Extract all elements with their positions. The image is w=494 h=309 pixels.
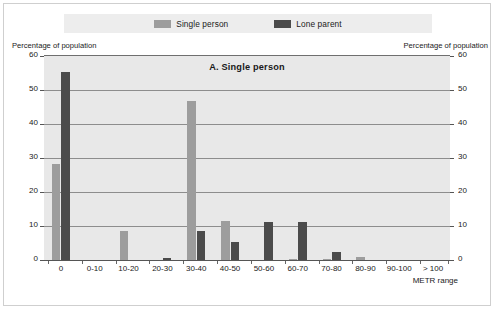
x-tick-label: > 100 [423, 264, 443, 273]
y-tick-label-right: 0 [458, 255, 482, 263]
bar-lone-parent [197, 231, 206, 261]
bar-lone-parent [61, 72, 70, 261]
y-tick-mark [450, 192, 454, 193]
x-tick-label: 90-100 [387, 264, 412, 273]
y-tick-label-left: 40 [14, 119, 38, 127]
y-tick-label-left: 60 [14, 51, 38, 59]
y-tick-label-left: 10 [14, 221, 38, 229]
legend-label: Single person [176, 19, 228, 29]
y-tick-mark [450, 124, 454, 125]
y-tick-label-right: 40 [458, 119, 482, 127]
x-tick-label: 50-60 [254, 264, 274, 273]
y-tick-label-right: 60 [458, 51, 482, 59]
y-tick-mark [40, 90, 44, 91]
bar-single-person [120, 231, 129, 261]
bar-lone-parent [231, 242, 240, 261]
y-tick-label-right: 50 [458, 85, 482, 93]
x-tick-label: 0 [59, 264, 63, 273]
x-tick-label: 30-40 [186, 264, 206, 273]
y-tick-mark [40, 192, 44, 193]
y-tick-label-left: 30 [14, 153, 38, 161]
left-axis-caption: Percentage of population [12, 41, 96, 50]
bar-single-person [187, 101, 196, 261]
y-tick-mark [40, 124, 44, 125]
y-tick-mark [40, 158, 44, 159]
chart-page: Single personLone parent Percentage of p… [0, 0, 494, 309]
chart-legend: Single personLone parent [64, 14, 432, 33]
x-tick-label: 80-90 [355, 264, 375, 273]
y-tick-mark [40, 226, 44, 227]
legend-item: Lone parent [274, 19, 341, 29]
x-tick-label: 70-80 [321, 264, 341, 273]
y-tick-label-right: 30 [458, 153, 482, 161]
y-tick-label-left: 0 [14, 255, 38, 263]
y-tick-mark [450, 90, 454, 91]
y-tick-mark [450, 158, 454, 159]
x-axis-title: METR range [413, 276, 458, 285]
y-tick-label-left: 50 [14, 85, 38, 93]
x-tick-label: 60-70 [288, 264, 308, 273]
bar-single-person [221, 221, 230, 261]
bar-series-container [44, 56, 450, 261]
plot-area: A. Single person [44, 55, 450, 261]
x-axis-baseline [44, 260, 450, 261]
legend-item: Single person [154, 19, 228, 29]
bar-lone-parent [298, 222, 307, 261]
y-tick-mark [450, 56, 454, 57]
x-tick-label: 0-10 [87, 264, 103, 273]
y-tick-mark [450, 260, 454, 261]
y-tick-label-right: 20 [458, 187, 482, 195]
y-tick-label-right: 10 [458, 221, 482, 229]
y-tick-label-left: 20 [14, 187, 38, 195]
legend-swatch-single-person [154, 20, 171, 28]
legend-label: Lone parent [296, 19, 341, 29]
right-axis-caption: Percentage of population [404, 41, 488, 50]
x-axis-labels: 00-1010-2020-3030-4040-5050-6060-7070-80… [44, 264, 450, 276]
bar-single-person [52, 164, 61, 261]
y-tick-mark [40, 56, 44, 57]
x-tick-label: 20-30 [152, 264, 172, 273]
y-tick-mark [450, 226, 454, 227]
x-tick-label: 40-50 [220, 264, 240, 273]
legend-swatch-lone-parent [274, 20, 291, 28]
x-tick-label: 10-20 [118, 264, 138, 273]
bar-lone-parent [264, 222, 273, 261]
